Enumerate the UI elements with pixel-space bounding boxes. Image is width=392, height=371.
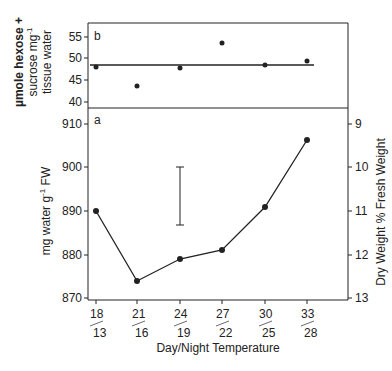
- y-ticks-a: 910 900 890 880 870: [62, 117, 82, 305]
- svg-text:870: 870: [62, 291, 82, 305]
- svg-text:25: 25: [262, 326, 276, 340]
- svg-text:19: 19: [177, 326, 191, 340]
- svg-text:30: 30: [259, 307, 273, 321]
- svg-text:55: 55: [69, 30, 83, 44]
- y-ticks-b: 55 50 45 40: [69, 30, 83, 109]
- y2-axis-label: Dry Weight % Fresh Weight: [374, 138, 388, 286]
- panel-a: [84, 124, 352, 304]
- svg-text:22: 22: [219, 326, 233, 340]
- svg-text:900: 900: [62, 160, 82, 174]
- svg-text:33: 33: [301, 307, 315, 321]
- svg-text:13: 13: [355, 291, 369, 305]
- svg-text:21: 21: [132, 307, 146, 321]
- svg-text:µmole hexose +: µmole hexose +: [12, 17, 26, 107]
- x-ticks: 18 21 24 27 30 33 13 16 19 22 25 28: [90, 307, 318, 340]
- svg-text:880: 880: [62, 248, 82, 262]
- y2-ticks: 9 10 11 12 13: [355, 117, 369, 305]
- svg-text:890: 890: [62, 204, 82, 218]
- svg-text:50: 50: [69, 51, 83, 65]
- svg-text:16: 16: [135, 326, 149, 340]
- svg-text:40: 40: [69, 95, 83, 109]
- x-axis-label: Day/Night Temperature: [156, 341, 279, 355]
- svg-text:9: 9: [355, 117, 362, 131]
- svg-text:45: 45: [69, 73, 83, 87]
- svg-text:27: 27: [216, 307, 230, 321]
- y-axis-label-a: mg water g-1 FW: [38, 166, 53, 255]
- svg-text:24: 24: [174, 307, 188, 321]
- panel-b-label: b: [94, 29, 101, 43]
- svg-text:910: 910: [62, 117, 82, 131]
- svg-text:11: 11: [355, 204, 368, 218]
- svg-text:tissue water: tissue water: [40, 30, 54, 94]
- svg-text:12: 12: [355, 248, 369, 262]
- panel-a-label: a: [94, 113, 101, 127]
- svg-text:13: 13: [93, 326, 107, 340]
- svg-text:28: 28: [304, 326, 318, 340]
- data-line: [96, 140, 307, 281]
- chart-figure: b a 55 50 45 40 910 900 890 880 870 9 10…: [0, 0, 392, 371]
- error-bar: [176, 167, 184, 225]
- svg-text:10: 10: [355, 160, 369, 174]
- svg-text:sucrose mg-1: sucrose mg-1: [25, 27, 40, 97]
- y-axis-label-b: µmole hexose + sucrose mg-1 tissue water: [12, 17, 54, 107]
- svg-text:18: 18: [90, 307, 104, 321]
- x-tick-slashes: [90, 321, 314, 326]
